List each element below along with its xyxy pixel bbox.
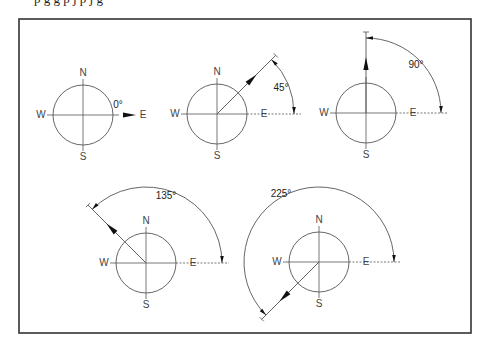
direction-arrow-icon <box>123 112 136 117</box>
west-label: W <box>170 108 180 119</box>
south-label: S <box>143 299 150 310</box>
compass-135: NSWE135° <box>86 187 229 310</box>
compass-225: NSWE225° <box>244 187 401 321</box>
diagram-frame <box>19 19 471 333</box>
east-label: E <box>261 108 268 119</box>
compass-0: NSWE0° <box>36 67 146 162</box>
angle-label-225: 225° <box>271 188 292 199</box>
north-label: N <box>79 67 86 78</box>
compass-group: NSWE0°NSWE45°SWE90°NSWE135°NSWE225° <box>36 32 448 321</box>
arc-end-arrow-icon <box>220 256 224 263</box>
east-label: E <box>190 257 197 268</box>
angle-label-0: 0° <box>113 99 123 110</box>
compass-90: SWE90° <box>319 32 448 160</box>
arc-end-arrow-icon <box>292 107 296 114</box>
south-label: S <box>80 151 87 162</box>
direction-line <box>217 55 276 114</box>
north-label: N <box>142 215 149 226</box>
east-label: E <box>140 109 147 120</box>
arc-end-arrow-icon <box>392 255 396 262</box>
angle-label-45: 45° <box>273 82 288 93</box>
angle-arc <box>366 38 441 113</box>
north-label: N <box>315 214 322 225</box>
west-label: W <box>272 256 282 267</box>
compass-angle-diagram: NSWE0°NSWE45°SWE90°NSWE135°NSWE225° <box>0 0 484 341</box>
south-label: S <box>363 149 370 160</box>
arc-start-arrow-icon <box>366 36 373 40</box>
direction-arrow-icon <box>363 57 368 70</box>
north-label: N <box>213 66 220 77</box>
west-label: W <box>99 257 109 268</box>
west-label: W <box>36 109 46 120</box>
west-label: W <box>319 107 329 118</box>
south-label: S <box>214 150 221 161</box>
east-label: E <box>363 256 370 267</box>
east-label: E <box>410 107 417 118</box>
arc-end-arrow-icon <box>439 106 443 113</box>
south-label: S <box>316 298 323 309</box>
angle-label-135: 135° <box>156 190 177 201</box>
compass-45: NSWE45° <box>170 53 301 160</box>
angle-label-90: 90° <box>408 59 423 70</box>
